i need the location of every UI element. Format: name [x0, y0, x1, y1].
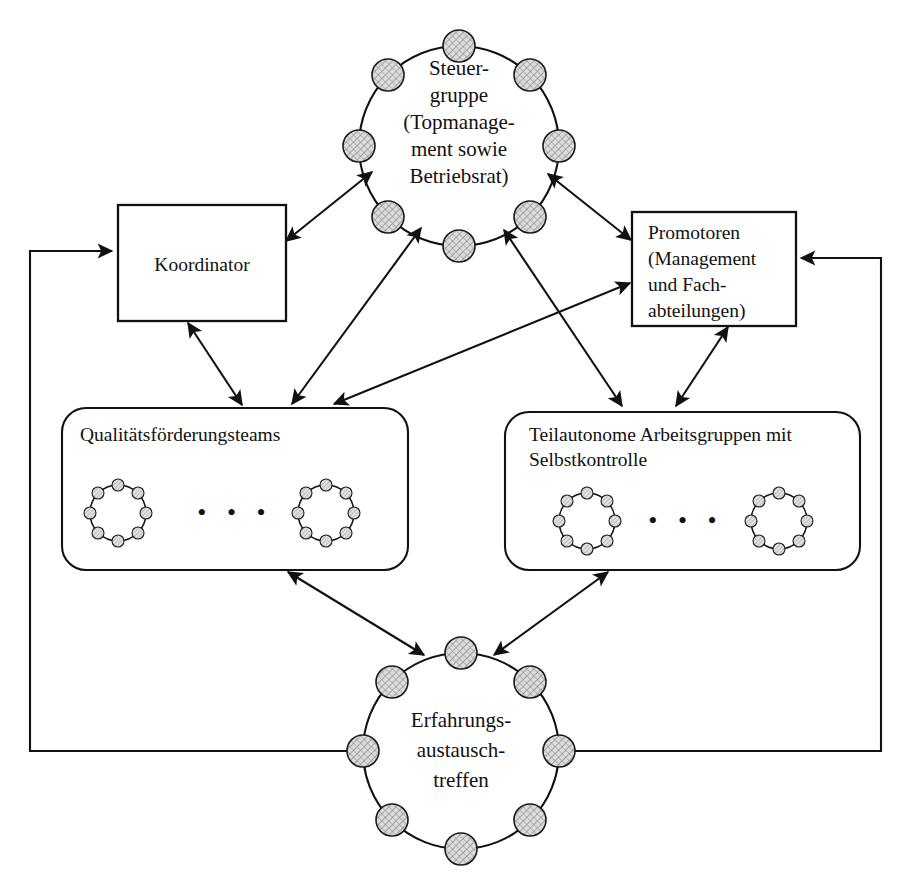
erfahrung-label-line-3: treffen [433, 768, 489, 792]
node-erfahrungsaustauschtreffen[interactable]: Erfahrungs- austausch- treffen [347, 637, 575, 865]
tag-label-line-2: Selbstkontrolle [529, 449, 647, 470]
member-node [376, 666, 408, 698]
node-steuergruppe[interactable]: Steuer- gruppe (Topmanage- ment sowie Be… [343, 30, 575, 262]
member-node [514, 666, 546, 698]
node-koordinator[interactable]: Koordinator [118, 205, 286, 321]
edge-steuergruppe-tag [504, 230, 622, 406]
diagram-canvas: Steuer- gruppe (Topmanage- ment sowie Be… [0, 0, 914, 876]
member-node [443, 230, 475, 262]
member-node [445, 833, 477, 865]
node-teilautonome-arbeitsgruppen[interactable]: Teilautonome Arbeitsgruppen mit Selbstko… [505, 412, 860, 570]
promotoren-label-line-3: und Fach- [648, 274, 727, 295]
tag-ellipsis: • • • [648, 506, 723, 535]
promotoren-label-line-2: (Management [648, 248, 757, 270]
member-node [347, 735, 379, 767]
member-node [343, 130, 375, 162]
promotoren-label-line-1: Promotoren [648, 222, 740, 243]
member-node [543, 130, 575, 162]
tag-label-line-1: Teilautonome Arbeitsgruppen mit [529, 424, 792, 445]
member-node [376, 804, 408, 836]
erfahrung-label-line-2: austausch- [417, 738, 506, 762]
qfteams-ellipsis: • • • [197, 498, 272, 527]
qfteams-label: Qualitätsförderungsteams [80, 424, 280, 445]
node-qualitaetsfoerderungsteams[interactable]: Qualitätsförderungsteams • • • [62, 408, 408, 570]
edge-promotoren-tag [676, 327, 728, 406]
steuergruppe-label-line-5: Betriebsrat) [409, 164, 508, 188]
member-node [514, 804, 546, 836]
steuergruppe-label-line-2: gruppe [430, 83, 488, 107]
edge-promotoren-qfteams [334, 283, 630, 404]
steuergruppe-label-line-4: ment sowie [411, 137, 507, 161]
edge-qfteams-erfahrung [288, 572, 424, 655]
edge-koordinator-steuergruppe [286, 172, 372, 241]
edge-tag-erfahrung [494, 572, 608, 655]
member-node [514, 59, 546, 91]
member-node [445, 637, 477, 669]
member-node [372, 201, 404, 233]
member-node [372, 59, 404, 91]
erfahrung-label-line-1: Erfahrungs- [411, 708, 511, 732]
edge-steuergruppe-qfteams [292, 228, 421, 404]
steuergruppe-label-line-1: Steuer- [429, 56, 489, 80]
node-promotoren[interactable]: Promotoren (Management und Fach- abteilu… [632, 212, 796, 326]
promotoren-label-line-4: abteilungen) [648, 300, 745, 322]
member-node [543, 735, 575, 767]
edge-koordinator-qfteams [188, 323, 242, 405]
edge-steuergruppe-promotoren [548, 174, 631, 240]
member-node [514, 201, 546, 233]
organization-diagram: Steuer- gruppe (Topmanage- ment sowie Be… [0, 0, 914, 876]
steuergruppe-label-line-3: (Topmanage- [403, 110, 515, 134]
koordinator-label: Koordinator [154, 254, 250, 275]
